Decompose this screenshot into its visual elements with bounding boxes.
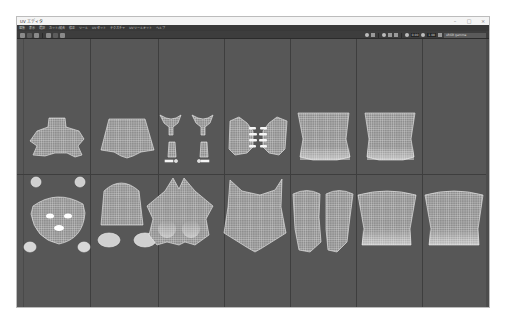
menu-cut-sew[interactable]: カット/縫合 xyxy=(49,26,65,30)
gamma-icon[interactable] xyxy=(421,33,425,37)
display-alpha-icon[interactable] xyxy=(371,33,375,37)
menu-uv-sets[interactable]: UV セット xyxy=(92,26,106,30)
uv-shell-ears[interactable] xyxy=(98,233,156,247)
shaded-toggle-icon[interactable] xyxy=(34,33,39,38)
menu-uv-toolkit[interactable]: UV ツールキット xyxy=(129,26,152,30)
uv-shell-shin-right[interactable] xyxy=(326,191,353,253)
menu-view[interactable]: 表示 xyxy=(29,26,35,30)
maximize-button[interactable]: □ xyxy=(465,17,473,25)
uv-shell-head-back[interactable] xyxy=(101,183,143,225)
display-rgb-icon[interactable] xyxy=(365,33,369,37)
snap-toggle-icon[interactable] xyxy=(53,33,58,38)
menu-select[interactable]: 選択 xyxy=(39,26,45,30)
toolbar-divider xyxy=(378,33,379,38)
image-toggle-icon[interactable] xyxy=(20,33,25,38)
uv-shell-hands[interactable] xyxy=(229,117,287,155)
uv-canvas[interactable] xyxy=(17,39,489,307)
uv-shell-torso-front[interactable] xyxy=(30,118,84,157)
toolbar-left-group xyxy=(20,32,65,38)
window-controls: – □ × xyxy=(451,17,487,25)
uv-editor-window: UV エディタ – □ × 編集 表示 選択 カット/縫合 修正 ツール UV … xyxy=(17,17,489,307)
pixel-snap-icon[interactable] xyxy=(394,33,398,37)
uv-shell-hip-back[interactable] xyxy=(425,191,483,245)
uv-shell-arm-left[interactable] xyxy=(160,115,181,163)
title-bar[interactable]: UV エディタ – □ × xyxy=(17,17,489,25)
colorspace-dropdown[interactable]: sRGB gamma xyxy=(444,33,486,38)
isolate-toggle-icon[interactable] xyxy=(60,33,65,38)
exposure-field[interactable]: 0.00 xyxy=(411,33,420,37)
toolbar-right-group: 0.00 1.00 sRGB gamma xyxy=(365,32,486,38)
minimize-button[interactable]: – xyxy=(451,17,459,25)
window-title: UV エディタ xyxy=(17,18,43,24)
uv-shell-chest[interactable] xyxy=(147,178,213,245)
uv-shell-face[interactable] xyxy=(24,177,90,252)
exposure-icon[interactable] xyxy=(405,33,409,37)
toolbar-divider xyxy=(401,33,402,38)
menu-textures[interactable]: テクスチャ xyxy=(110,26,125,30)
menu-tools[interactable]: ツール xyxy=(79,26,88,30)
menu-edit[interactable]: 編集 xyxy=(19,26,25,30)
view-transform-icon[interactable] xyxy=(438,33,442,37)
uv-shell-thigh-left[interactable] xyxy=(298,113,350,160)
menu-help[interactable]: ヘルプ xyxy=(156,26,165,30)
uv-shell-belly[interactable] xyxy=(224,179,286,252)
filter-icon[interactable] xyxy=(388,33,392,37)
uv-shell-hip-front[interactable] xyxy=(358,191,416,245)
uv-shell-shin-left[interactable] xyxy=(293,191,321,253)
uv-shell-arm-right[interactable] xyxy=(192,115,213,163)
gamma-field[interactable]: 1.00 xyxy=(427,33,436,37)
dim-image-icon[interactable] xyxy=(382,33,386,37)
menu-modify[interactable]: 修正 xyxy=(69,26,75,30)
toolbar: 0.00 1.00 sRGB gamma xyxy=(17,31,489,39)
checker-toggle-icon[interactable] xyxy=(27,33,32,38)
close-button[interactable]: × xyxy=(479,17,487,25)
uv-shell-torso-back[interactable] xyxy=(101,119,154,158)
toolbar-divider xyxy=(42,33,43,38)
uv-shell-thigh-right[interactable] xyxy=(365,113,415,160)
grid-toggle-icon[interactable] xyxy=(46,33,51,38)
uv-shells-layer xyxy=(17,39,489,307)
vertical-scrollbar[interactable] xyxy=(486,39,489,307)
